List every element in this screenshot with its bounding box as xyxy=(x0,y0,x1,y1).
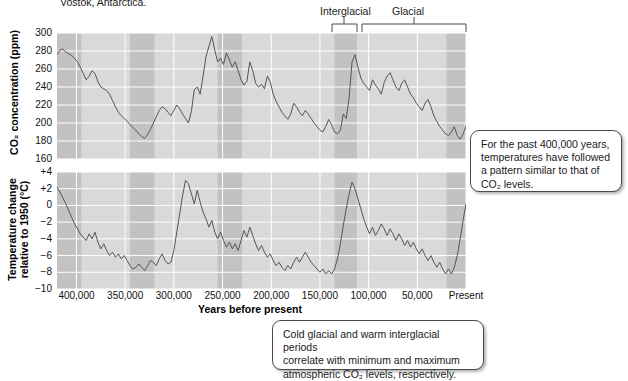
temperature-y-tick: −6 xyxy=(18,251,52,261)
x-tick: Present xyxy=(436,291,496,301)
callout-right-line-1: temperatures have followed xyxy=(481,151,612,164)
co2-y-tick: 260 xyxy=(18,64,52,74)
period-label-glacial: Glacial xyxy=(392,5,424,17)
callout-right-line-3: CO₂ levels. xyxy=(481,178,612,191)
co2-plot-area xyxy=(57,33,466,159)
co2-y-tick: 220 xyxy=(18,100,52,110)
co2-y-tick: 300 xyxy=(18,28,52,38)
x-axis-title: Years before present xyxy=(0,303,500,315)
callout-bottom-line-0: Cold glacial and warm interglacial perio… xyxy=(283,328,474,354)
co2-y-tick: 160 xyxy=(18,154,52,164)
temperature-plot-area xyxy=(57,172,466,289)
temperature-y-tick: −4 xyxy=(18,234,52,244)
callout-right-line-0: For the past 400,000 years, xyxy=(481,138,612,151)
callout-temperature-pattern: For the past 400,000 years, temperatures… xyxy=(470,130,622,192)
temperature-y-tick: −8 xyxy=(18,267,52,277)
co2-y-tick: 200 xyxy=(18,118,52,128)
temperature-y-tick: −2 xyxy=(18,217,52,227)
callout-right-line-2: a pattern similar to that of xyxy=(481,164,612,177)
co2-y-tick: 180 xyxy=(18,136,52,146)
callout-bottom-line-2: atmospheric CO₂ levels, respectively. xyxy=(283,368,474,381)
temperature-y-tick: +2 xyxy=(18,184,52,194)
co2-y-tick: 280 xyxy=(18,46,52,56)
callout-glacial-correlation: Cold glacial and warm interglacial perio… xyxy=(272,320,484,370)
co2-y-tick: 240 xyxy=(18,82,52,92)
temperature-y-tick: 0 xyxy=(18,200,52,210)
temperature-y-tick: +4 xyxy=(18,167,52,177)
callout-bottom-line-1: correlate with minimum and maximum xyxy=(283,354,474,367)
period-label-interglacial: Interglacial xyxy=(320,5,371,17)
caption-fragment: Vostok, Antarctica. xyxy=(60,0,300,8)
